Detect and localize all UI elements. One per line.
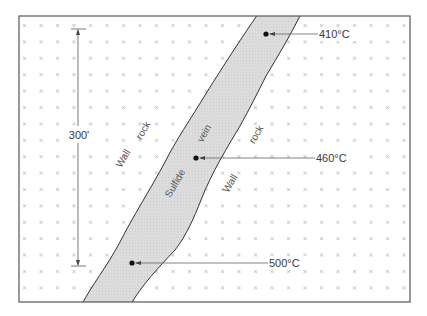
sulfide-vein-diagram: 300' Wall rock rock Wall Sulfide vein 41… [0,0,427,316]
sample-dot-icon [263,31,268,36]
temperature-label-460: 460°C [316,152,347,164]
temperature-label-500: 500°C [269,257,300,269]
sample-dot-icon [193,155,198,160]
scale-label: 300' [69,129,89,141]
temperature-label-410: 410°C [319,28,350,40]
sample-dot-icon [129,260,134,265]
